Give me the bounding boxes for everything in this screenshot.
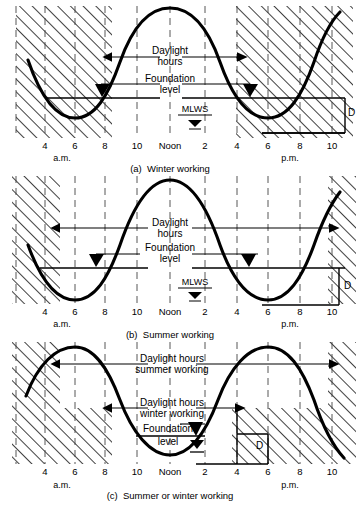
panel-c-tick-4pm: 4 — [234, 467, 239, 477]
panel-c-tick-noon: Noon — [159, 467, 182, 477]
panel-c-tick-8pm: 8 — [297, 467, 302, 477]
panel-c-daylight-winter-line2: winter working — [140, 409, 204, 419]
panel-b-tick-2pm: 2 — [202, 307, 207, 317]
panel-a-tick-10am: 10 — [132, 141, 143, 151]
panel-c-daylight-summer-line1: Daylight hours — [140, 354, 204, 364]
panel-c-hatch-right-winter — [232, 408, 328, 464]
panel-a-tick-10pm: 10 — [327, 141, 338, 151]
panel-a-caption: (a) Winter working — [130, 164, 210, 174]
panel-c-tick-8am: 8 — [102, 467, 107, 477]
panel-c-daylight-summer-line2: summer working — [135, 365, 208, 375]
panel-a-am-label: a.m. — [53, 153, 71, 163]
panel-c-am-label: a.m. — [53, 480, 71, 490]
panel-c-tick-6am: 6 — [72, 467, 77, 477]
panel-b-tick-4pm: 4 — [234, 307, 239, 317]
panel-b-tick-10am: 10 — [132, 307, 143, 317]
panel-c-tick-4am: 4 — [42, 467, 47, 477]
panel-c-tick-6pm: 6 — [265, 467, 270, 477]
panel-b-foundation-label: Foundation — [145, 243, 195, 253]
panel-b-hours-label: hours — [157, 229, 182, 239]
panel-a-tick-8pm: 8 — [297, 141, 302, 151]
panel-a-depth-label: D — [348, 108, 355, 118]
panel-a-foundation-label: Foundation — [145, 74, 195, 84]
panel-a-tick-8am: 8 — [102, 141, 107, 151]
panel-c-foundation-label: Foundation — [143, 424, 193, 434]
panel-a-tick-6pm: 6 — [265, 141, 270, 151]
panel-a-level-label: level — [160, 85, 181, 95]
panel-a-tick-noon: Noon — [159, 141, 182, 151]
panel-b-am-label: a.m. — [53, 319, 71, 329]
panel-a-pm-label: p.m. — [281, 153, 299, 163]
panel-a-hatch-right — [236, 6, 353, 138]
panel-c-hatch-left-winter — [60, 408, 112, 464]
panel-c-depth-label: D — [256, 441, 263, 451]
panel-a-tick-6am: 6 — [72, 141, 77, 151]
panel-b-tick-noon: Noon — [159, 307, 182, 317]
panel-b-daylight-label: Daylight — [152, 218, 188, 228]
panel-b-hatch-left — [12, 176, 60, 304]
panel-a-hatch-left — [16, 6, 112, 138]
panel-b-tick-6am: 6 — [72, 307, 77, 317]
panel-a-tick-2pm: 2 — [202, 141, 207, 151]
panel-a-daylight-label: Daylight — [152, 46, 188, 56]
panel-c-caption: (c) Summer or winter working — [107, 491, 234, 501]
panel-c-tick-10pm: 10 — [327, 467, 338, 477]
panel-c-pm-label: p.m. — [281, 480, 299, 490]
panel-a-hours-label: hours — [157, 57, 182, 67]
panel-a-tick-4pm: 4 — [234, 141, 239, 151]
panel-b-tick-10pm: 10 — [327, 307, 338, 317]
panel-a-mlws-label: MLWS — [182, 104, 208, 114]
panel-b-pm-label: p.m. — [281, 319, 299, 329]
panel-c-hatch-left-outer — [12, 342, 60, 464]
panel-b-depth-label: D — [344, 281, 351, 291]
panel-b-tick-8am: 8 — [102, 307, 107, 317]
panel-b-tick-6pm: 6 — [265, 307, 270, 317]
panel-b-tick-8pm: 8 — [297, 307, 302, 317]
panel-c-tick-10am: 10 — [132, 467, 143, 477]
panel-c-tick-2pm: 2 — [202, 467, 207, 477]
panel-a-tick-4am: 4 — [42, 141, 47, 151]
panel-b-level-label: level — [160, 254, 181, 264]
panel-b-tick-4am: 4 — [42, 307, 47, 317]
panel-c-level-label: level — [158, 437, 179, 447]
panel-b-caption: (b) Summer working — [126, 330, 214, 340]
panel-b-mlws-label: MLWS — [182, 277, 208, 287]
panel-c-daylight-winter-line1: Daylight hours — [140, 398, 204, 408]
